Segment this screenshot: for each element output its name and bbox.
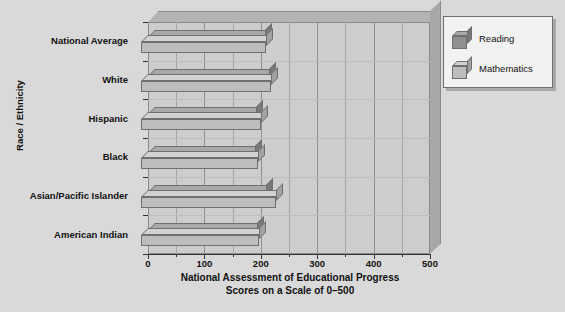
- y-tick: [143, 254, 148, 255]
- x-tick: [402, 254, 403, 257]
- y-tick: [143, 61, 148, 62]
- bar-front-face: [141, 42, 266, 53]
- y-axis-label: Hispanic: [88, 113, 128, 124]
- row-separator: [148, 61, 430, 62]
- y-axis-label: White: [102, 74, 128, 85]
- chart-legend: Reading Mathematics: [443, 16, 553, 88]
- bar-top-face: [141, 151, 265, 158]
- y-axis-label: National Average: [51, 35, 128, 46]
- x-tick: [289, 254, 290, 257]
- x-tick-label: 300: [297, 258, 337, 269]
- y-axis-label: Asian/Pacific Islander: [30, 190, 128, 201]
- row-separator: [148, 215, 430, 216]
- x-tick-label: 500: [410, 258, 450, 269]
- y-tick: [143, 215, 148, 216]
- bar-mathematics-asian-pacific-islander: [141, 197, 276, 208]
- row-separator: [148, 99, 430, 100]
- bar-mathematics-hispanic: [141, 119, 261, 130]
- bar-mathematics-national-average: [141, 42, 266, 53]
- row-separator: [148, 177, 430, 178]
- bar-front-face: [141, 81, 271, 92]
- y-tick: [143, 99, 148, 100]
- x-axis-title-line1: National Assessment of Educational Progr…: [118, 272, 462, 285]
- bar-top-face: [141, 35, 273, 42]
- bar-mathematics-white: [141, 81, 271, 92]
- bar-mathematics-american-indian: [141, 235, 259, 246]
- legend-swatch-reading: [452, 31, 471, 45]
- legend-label-mathematics: Mathematics: [479, 63, 533, 74]
- x-tick: [345, 254, 346, 257]
- bar-top-face: [141, 190, 283, 197]
- x-axis-title: National Assessment of Educational Progr…: [118, 272, 462, 297]
- y-tick: [143, 138, 148, 139]
- y-tick: [143, 22, 148, 23]
- x-tick-label: 200: [241, 258, 281, 269]
- bar-mathematics-black: [141, 158, 258, 169]
- plot-right-face: [430, 0, 441, 254]
- row-separator: [148, 138, 430, 139]
- legend-item-mathematics[interactable]: Mathematics: [452, 61, 533, 75]
- x-tick-label: 0: [128, 258, 168, 269]
- x-axis-title-line2: Scores on a Scale of 0–500: [118, 285, 462, 298]
- plot-top-face: [148, 11, 441, 22]
- y-axis-label: Black: [103, 151, 128, 162]
- bar-front-face: [141, 235, 259, 246]
- y-axis-title: Race / Ethnicity: [14, 61, 25, 171]
- bar-front-face: [141, 119, 261, 130]
- x-tick-label: 400: [354, 258, 394, 269]
- y-axis-label: American Indian: [54, 229, 128, 240]
- bar-top-face: [141, 228, 266, 235]
- y-tick: [143, 177, 148, 178]
- legend-swatch-mathematics: [452, 61, 471, 75]
- bar-front-face: [141, 158, 258, 169]
- x-tick-label: 100: [184, 258, 224, 269]
- x-tick: [176, 254, 177, 257]
- chart-container: National AverageWhiteHispanicBlackAsian/…: [0, 0, 565, 312]
- bar-front-face: [141, 197, 276, 208]
- bar-top-face: [141, 112, 268, 119]
- legend-label-reading: Reading: [479, 33, 514, 44]
- bar-top-face: [141, 74, 278, 81]
- x-tick: [233, 254, 234, 257]
- legend-item-reading[interactable]: Reading: [452, 31, 514, 45]
